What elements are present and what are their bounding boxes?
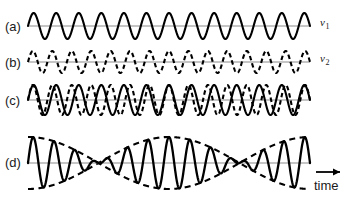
time-axis-label: time bbox=[314, 178, 339, 193]
beats-figure: (a) (b) (c) (d) ν1 ν2 time bbox=[0, 0, 347, 203]
wave-label-nu2: ν2 bbox=[320, 52, 329, 64]
panel-c-group bbox=[28, 85, 310, 115]
waveform-canvas bbox=[0, 0, 347, 203]
panel-d-group bbox=[28, 137, 310, 189]
nu2-subscript: 2 bbox=[325, 58, 329, 67]
time-axis-arrow bbox=[316, 169, 340, 176]
panel-label-b: (b) bbox=[5, 55, 21, 70]
nu1-subscript: 1 bbox=[325, 22, 329, 31]
panel-label-a: (a) bbox=[5, 19, 21, 34]
panel-b-group bbox=[28, 51, 310, 73]
right-arrow-icon bbox=[333, 169, 340, 176]
panel-a-group bbox=[28, 13, 310, 39]
panel-label-c: (c) bbox=[5, 93, 20, 108]
wave-label-nu1: ν1 bbox=[320, 16, 329, 28]
panel-label-d: (d) bbox=[5, 155, 21, 170]
